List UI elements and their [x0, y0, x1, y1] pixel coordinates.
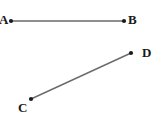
point-label-d: D: [142, 46, 151, 59]
point-label-a: A: [0, 13, 8, 26]
segment-cd-line: [31, 53, 131, 99]
point-d-dot: [129, 51, 133, 55]
point-b-dot: [122, 19, 126, 23]
point-label-c: C: [18, 101, 27, 114]
point-a-dot: [9, 19, 13, 23]
geometry-figure-canvas: A B C D: [0, 0, 160, 124]
point-label-b: B: [128, 13, 137, 26]
point-c-dot: [29, 97, 33, 101]
